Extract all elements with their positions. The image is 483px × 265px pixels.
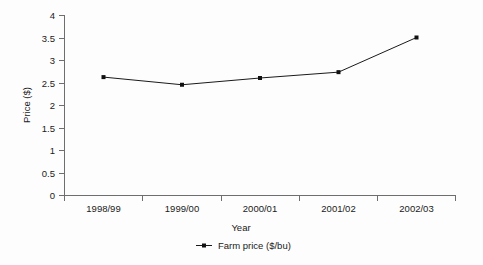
data-point-marker: [180, 83, 184, 87]
data-point-marker: [415, 36, 419, 40]
y-tick-label: 0: [50, 190, 55, 201]
y-tick-label: 0.5: [42, 168, 55, 179]
x-tick-label: 1999/00: [165, 203, 199, 214]
data-point-marker: [337, 70, 341, 74]
x-tick-label: 1998/99: [86, 203, 120, 214]
x-tick-label: 2000/01: [243, 203, 277, 214]
y-tick-label: 1: [50, 145, 55, 156]
y-tick-label: 4: [50, 10, 55, 21]
y-tick-label: 1.5: [42, 123, 55, 134]
data-point-marker: [258, 76, 262, 80]
y-tick-label: 3.5: [42, 33, 55, 44]
data-point-marker: [102, 75, 106, 79]
x-tick-label: 2001/02: [321, 203, 355, 214]
x-axis-title: Year: [231, 222, 250, 233]
legend-marker-icon: [202, 244, 206, 248]
y-tick-label: 3: [50, 55, 55, 66]
y-axis-title: Price ($): [21, 87, 32, 123]
legend-entry-label: Farm price ($/bu): [218, 240, 291, 251]
chart-figure: 4 3.5 3 2.5 2 1.5 1 0.5 0 1998/99 1999/0…: [0, 0, 483, 265]
x-tick-label: 2002/03: [399, 203, 433, 214]
y-tick-label: 2: [50, 100, 55, 111]
line-chart: 4 3.5 3 2.5 2 1.5 1 0.5 0 1998/99 1999/0…: [0, 0, 483, 265]
y-tick-label: 2.5: [42, 78, 55, 89]
